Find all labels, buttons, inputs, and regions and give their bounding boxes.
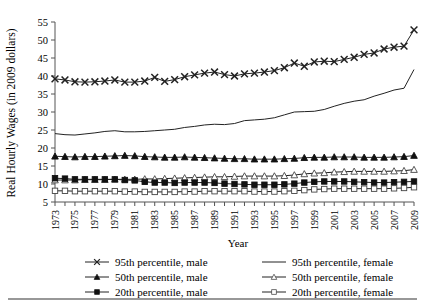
marker-square [152,189,157,194]
marker-square [102,189,107,194]
marker-square [192,180,197,185]
marker-square [252,189,257,194]
marker-square [302,180,307,185]
marker-square [102,177,107,182]
marker-square [242,182,247,187]
x-tick-label: 1985 [169,210,180,230]
y-tick-label: 50 [38,35,49,46]
marker-square [292,181,297,186]
marker-square [122,189,127,194]
x-axis-ticks: 1973197519771979198119831985198719891991… [50,202,420,230]
marker-square [361,186,366,191]
marker-square [262,182,267,187]
marker-square [172,189,177,194]
chart-figure: Real Hourly Wages (in 2009 dollars) 5101… [0,0,425,305]
legend-item-2[interactable]: 50th percentile, male [85,271,208,283]
marker-square [122,177,127,182]
marker-square [52,188,57,193]
x-tick-label: 1973 [50,210,61,230]
marker-square [132,189,137,194]
legend-item-3[interactable]: 50th percentile, female [262,271,393,283]
y-tick-label: 25 [38,125,49,136]
legend-item-4[interactable]: 20th percentile, male [85,286,208,298]
x-tick-label: 1981 [129,210,140,230]
x-tick-label: 1977 [89,210,100,230]
y-tick-label: 15 [38,161,49,172]
x-tick-label: 1999 [309,210,320,230]
marker-square [312,179,317,184]
y-tick-label: 20 [38,143,49,154]
series-1 [55,70,414,136]
marker-x-cross [301,63,308,70]
legend-item-5[interactable]: 20th percentile, female [262,286,393,298]
marker-square [172,180,177,185]
legend-label: 95th percentile, male [115,256,208,268]
marker-square [112,189,117,194]
marker-square [381,186,386,191]
marker-square [302,187,307,192]
y-tick-label: 55 [38,17,49,28]
wage-percentile-line-chart: Real Hourly Wages (in 2009 dollars) 5101… [0,0,425,305]
legend-item-0[interactable]: 95th percentile, male [85,256,208,268]
marker-square [262,189,267,194]
marker-square [322,186,327,191]
marker-square [162,180,167,185]
y-tick-label: 10 [38,179,49,190]
marker-square [212,180,217,185]
marker-square [332,179,337,184]
marker-square [252,182,257,187]
marker-square [72,189,77,194]
x-tick-label: 2009 [409,210,420,230]
marker-square [351,179,356,184]
series-line [55,70,414,136]
x-tick-label: 2007 [389,210,400,230]
marker-square [272,182,277,187]
marker-x-cross [281,64,288,71]
marker-square [82,177,87,182]
marker-square [272,290,277,295]
marker-square [142,189,147,194]
marker-x-cross [351,54,358,61]
marker-square [371,186,376,191]
series-group [52,27,418,195]
x-tick-label: 1989 [209,210,220,230]
legend-item-1[interactable]: 95th percentile, female [262,256,393,268]
marker-square [282,182,287,187]
marker-square [312,187,317,192]
x-tick-label: 1979 [109,210,120,230]
marker-square [332,186,337,191]
x-tick-label: 1993 [249,210,260,230]
marker-square [341,179,346,184]
marker-square [371,180,376,185]
marker-square [242,189,247,194]
x-tick-label: 1995 [269,210,280,230]
marker-square [282,189,287,194]
marker-square [202,180,207,185]
marker-square [62,176,67,181]
chart-legend: 95th percentile, male95th percentile, fe… [85,256,393,298]
marker-square [401,185,406,190]
marker-square [232,189,237,194]
marker-square [132,178,137,183]
marker-square [182,189,187,194]
marker-square [411,185,416,190]
y-tick-label: 35 [38,89,49,100]
x-axis-title: Year [228,237,249,249]
marker-square [202,189,207,194]
x-tick-label: 1983 [149,210,160,230]
marker-square [112,177,117,182]
marker-square [381,180,386,185]
y-axis-title: Real Hourly Wages (in 2009 dollars) [5,28,18,197]
marker-x-cross [151,74,158,81]
marker-square [391,180,396,185]
marker-square [92,177,97,182]
x-tick-label: 2001 [329,210,340,230]
y-axis-title-group: Real Hourly Wages (in 2009 dollars) [5,28,18,197]
marker-square [322,179,327,184]
legend-label: 50th percentile, female [292,271,393,283]
marker-square [222,189,227,194]
marker-square [162,189,167,194]
marker-x-cross [341,56,348,63]
x-tick-label: 1975 [69,210,80,230]
marker-x-cross [291,60,298,67]
